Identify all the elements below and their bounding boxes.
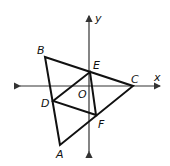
point-label-e: E xyxy=(93,59,100,72)
point-label-c: C xyxy=(131,73,139,86)
point-label-d: D xyxy=(41,97,49,110)
point-label-f: F xyxy=(98,118,105,131)
point-label-b: B xyxy=(37,44,45,57)
origin-label: O xyxy=(78,88,87,101)
coordinate-diagram: y x O B E C D F A xyxy=(0,0,170,166)
axis-label-x: x xyxy=(153,71,161,84)
axis-label-y: y xyxy=(94,12,102,25)
point-label-a: A xyxy=(55,148,64,161)
